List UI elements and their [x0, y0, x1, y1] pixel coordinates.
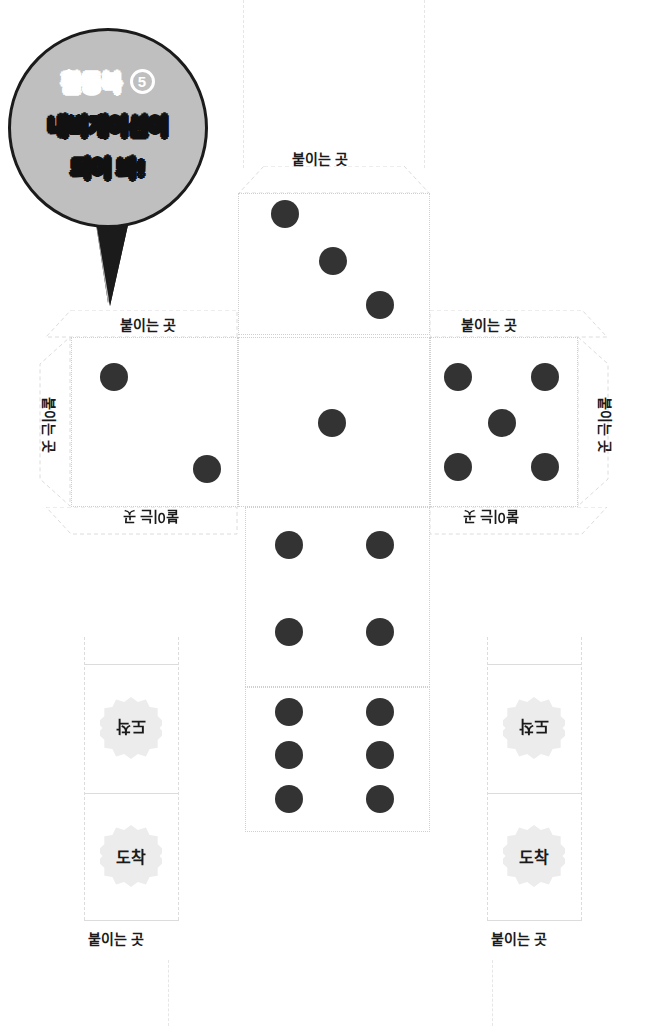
guide-line-left [243, 0, 244, 168]
flap-left-side-label: 붙이는 곳 [40, 397, 60, 453]
flap-right-bottom-label: 붙이는 곳 [463, 508, 519, 528]
flap-top-label: 붙이는 곳 [292, 148, 348, 168]
pip [275, 531, 303, 559]
pip [444, 453, 472, 481]
pip [366, 785, 394, 813]
left-column-sep-3 [84, 920, 179, 921]
face-six [245, 687, 430, 832]
pip [275, 618, 303, 646]
flap-right-top-label: 붙이는 곳 [461, 314, 517, 334]
pip [271, 200, 299, 228]
flap-left-top-label: 붙이는 곳 [120, 314, 176, 334]
pip [531, 363, 559, 391]
workbook-number: 5 [130, 69, 155, 94]
badge-label: 도착 [116, 716, 146, 740]
pip [366, 698, 394, 726]
pip [275, 785, 303, 813]
pip [444, 363, 472, 391]
flap-left-bottom-label: 붙이는 곳 [123, 508, 179, 528]
bubble-line-3: 되어 봐! [71, 150, 144, 182]
pip [318, 409, 346, 437]
guide-line-right-bottom [492, 960, 493, 1026]
pip [319, 247, 347, 275]
pip [193, 455, 221, 483]
pip [488, 409, 516, 437]
pip [366, 618, 394, 646]
face-four [245, 507, 430, 687]
pip [366, 291, 394, 319]
pip [531, 453, 559, 481]
worksheet-canvas: 활동북 5 내비게이션이 되어 봐! 붙이는 곳 붙이는 곳 붙이는 곳 붙이는… [0, 0, 646, 1026]
right-column-sep-2 [487, 793, 582, 794]
pip [275, 698, 303, 726]
right-column-sep-3 [487, 920, 582, 921]
left-column-footer-label: 붙이는 곳 [88, 928, 144, 948]
flap-right-side-label: 붙이는 곳 [596, 397, 616, 453]
pip [366, 741, 394, 769]
left-column-sep-2 [84, 793, 179, 794]
badge-label: 도착 [116, 844, 146, 868]
bubble-line-2: 내비게이션이 [48, 108, 168, 140]
flap-right-bottom-outline [430, 507, 608, 535]
guide-line-left-bottom [168, 960, 169, 1026]
workbook-label: 활동북 [62, 66, 122, 96]
badge-label: 도착 [519, 716, 549, 740]
flap-top-outline [238, 166, 430, 194]
guide-line-right [424, 0, 425, 168]
speech-bubble: 활동북 5 내비게이션이 되어 봐! [8, 28, 220, 278]
right-column-sep-1 [487, 664, 582, 665]
badge-label: 도착 [519, 844, 549, 868]
flap-right-top-outline [430, 310, 608, 338]
pip [275, 741, 303, 769]
right-column-footer-label: 붙이는 곳 [491, 928, 547, 948]
pip [100, 363, 128, 391]
left-column-sep-1 [84, 664, 179, 665]
pip [366, 531, 394, 559]
